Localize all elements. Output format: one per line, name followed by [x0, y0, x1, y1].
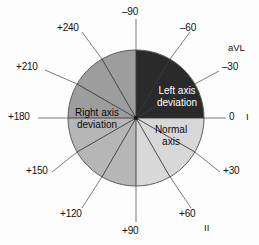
leader-plus120 [82, 177, 102, 208]
tick-label-plus180: +180 [8, 111, 30, 122]
tick-label-plus240: +240 [57, 22, 79, 33]
lead-label-i: I [246, 111, 249, 122]
tick-label-plus120: +120 [60, 208, 82, 219]
leader-plus150 [52, 152, 77, 172]
axis-center-dot [134, 116, 138, 120]
sector-label-right-axis-deviation: Right axis deviation [64, 107, 130, 130]
tick-label-plus210: +210 [16, 61, 38, 72]
sector-label-right-axis-line1: Right axis [64, 107, 130, 119]
sector-label-left-axis-line2: deviation [146, 97, 208, 109]
tick-label-minus60: –60 [180, 22, 196, 33]
tick-label-minus30: –30 [222, 61, 238, 72]
leader-plus240 [82, 32, 102, 59]
sector-label-normal-axis: Normal axis [143, 124, 199, 147]
leader-minus30 [195, 71, 219, 84]
leader-minus60 [170, 32, 190, 59]
leader-plus210 [45, 70, 77, 84]
leader-plus60 [170, 177, 191, 208]
tick-label-plus60: +60 [179, 208, 195, 219]
sector-label-left-axis-line1: Left axis [146, 85, 208, 97]
tick-label-plus150: +150 [26, 165, 48, 176]
leader-plus30 [195, 152, 220, 172]
lead-label-avl: aVL [228, 42, 245, 53]
sector-label-normal-line2: axis [143, 136, 199, 148]
sector-label-right-axis-line2: deviation [64, 119, 130, 131]
cardiac-axis-figure: –90 –60 –30 0 +30 +60 +90 +120 +150 +180… [0, 0, 259, 245]
sector-label-normal-line1: Normal [143, 124, 199, 136]
tick-label-minus90: –90 [122, 6, 138, 17]
tick-label-plus30: +30 [223, 165, 239, 176]
tick-label-plus90: +90 [122, 225, 138, 236]
tick-label-zero: 0 [229, 111, 234, 122]
sector-label-left-axis-deviation: Left axis deviation [146, 85, 208, 108]
lead-label-ii: II [204, 222, 209, 233]
